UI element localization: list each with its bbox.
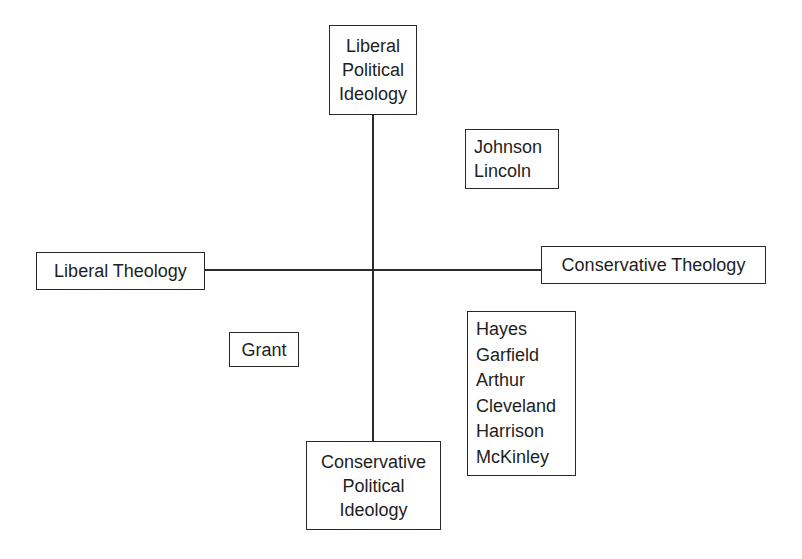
president-name: Garfield	[476, 343, 539, 369]
president-name: Arthur	[476, 368, 525, 394]
axis-label-line: Political	[342, 474, 404, 498]
axis-label: Liberal Theology	[54, 259, 187, 283]
axis-label-line: Ideology	[339, 498, 407, 522]
conservative-theology-box: Conservative Theology	[541, 246, 766, 284]
vertical-axis-line	[372, 115, 374, 441]
president-name: Lincoln	[474, 159, 531, 183]
president-name: Hayes	[476, 317, 527, 343]
president-name: Harrison	[476, 419, 544, 445]
president-name: Cleveland	[476, 394, 556, 420]
conservative-political-ideology-box: Conservative Political Ideology	[306, 441, 441, 530]
axis-label-line: Political	[342, 58, 404, 82]
axis-label-line: Conservative	[321, 450, 426, 474]
president-name: Johnson	[474, 135, 542, 159]
liberal-theology-box: Liberal Theology	[36, 252, 205, 290]
axis-label-line: Liberal	[346, 34, 400, 58]
horizontal-axis-line	[205, 269, 541, 271]
president-name: McKinley	[476, 445, 549, 471]
lower-right-group-box: Hayes Garfield Arthur Cleveland Harrison…	[467, 311, 576, 476]
lower-left-group-box: Grant	[229, 332, 299, 367]
axis-label: Conservative Theology	[562, 253, 746, 277]
liberal-political-ideology-box: Liberal Political Ideology	[329, 25, 417, 115]
president-name: Grant	[241, 338, 286, 362]
upper-right-group-box: Johnson Lincoln	[465, 129, 559, 189]
axis-label-line: Ideology	[339, 82, 407, 106]
